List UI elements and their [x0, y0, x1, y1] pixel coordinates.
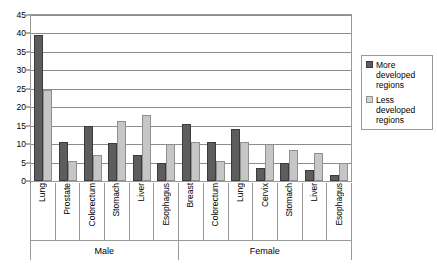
category-label-text: Lung: [38, 183, 47, 204]
bar-group: [326, 15, 351, 181]
y-axis-tick-label: 40: [17, 29, 26, 38]
bar-group: [129, 15, 154, 181]
y-axis-tick-label: 45: [17, 11, 26, 20]
bar-less-developed: [289, 150, 298, 181]
category-label-text: Esophagus: [335, 183, 344, 228]
bar-more-developed: [207, 142, 216, 181]
category-label: Stomach: [278, 183, 303, 240]
category-label-text: Stomach: [285, 183, 294, 219]
bar-more-developed: [231, 129, 240, 181]
bar-more-developed: [157, 163, 166, 181]
category-label: Lung: [229, 183, 254, 240]
group-label: Male: [31, 241, 179, 260]
legend-label-line2: developed: [376, 70, 415, 80]
category-label: Lung: [31, 183, 56, 240]
group-label-strip: MaleFemale: [30, 240, 352, 260]
category-label-text: Breast: [186, 183, 195, 210]
category-label: Prostate: [56, 183, 81, 240]
bar-less-developed: [314, 153, 323, 181]
category-label-text: Prostate: [63, 183, 72, 217]
bar-more-developed: [330, 175, 339, 181]
bar-more-developed: [108, 143, 117, 181]
bar-group: [56, 15, 81, 181]
bar-more-developed: [182, 124, 191, 181]
y-axis-tick-label: 10: [17, 140, 26, 149]
chart-legend: More developed regions Less developed re…: [361, 55, 433, 130]
bar-group: [80, 15, 105, 181]
category-label: Liver: [130, 183, 155, 240]
bar-more-developed: [305, 170, 314, 181]
category-label: Esophagus: [154, 183, 179, 240]
category-label-strip: LungProstateColorectumStomachLiverEsopha…: [30, 183, 352, 240]
category-label: Breast: [179, 183, 204, 240]
bar-more-developed: [256, 168, 265, 181]
category-label-text: Colorectum: [211, 183, 220, 228]
bar-group: [154, 15, 179, 181]
category-label-text: Liver: [310, 183, 319, 203]
bar-more-developed: [84, 126, 93, 181]
bar-less-developed: [166, 144, 175, 181]
bar-less-developed: [216, 161, 225, 181]
category-label-text: Cervix: [261, 183, 270, 209]
y-axis-tick-label: 35: [17, 47, 26, 56]
legend-swatch-more-developed: [366, 61, 373, 68]
category-label: Colorectum: [204, 183, 229, 240]
category-label-text: Esophagus: [162, 183, 171, 228]
legend-item-less-developed: Less developed regions: [366, 95, 429, 125]
legend-label-line1: More: [376, 60, 395, 70]
category-label: Stomach: [105, 183, 130, 240]
legend-label-less-developed: Less developed regions: [376, 95, 415, 125]
y-axis: 051015202530354045: [0, 0, 30, 196]
bar-more-developed: [34, 35, 43, 181]
category-label-text: Lung: [236, 183, 245, 204]
category-label: Cervix: [253, 183, 278, 240]
bar-group: [277, 15, 302, 181]
bar-group: [302, 15, 327, 181]
category-label: Esophagus: [327, 183, 351, 240]
bar-series-area: [31, 15, 351, 181]
bar-group: [252, 15, 277, 181]
category-label: Liver: [303, 183, 328, 240]
category-label-text: Liver: [137, 183, 146, 203]
y-axis-tick-label: 15: [17, 121, 26, 130]
bar-group: [31, 15, 56, 181]
bar-group: [228, 15, 253, 181]
bar-group: [179, 15, 204, 181]
bar-more-developed: [59, 142, 68, 181]
category-label: Colorectum: [80, 183, 105, 240]
bar-less-developed: [142, 115, 151, 181]
y-axis-tick-label: 25: [17, 84, 26, 93]
category-label-text: Stomach: [112, 183, 121, 219]
bar-group: [105, 15, 130, 181]
category-label-text: Colorectum: [88, 183, 97, 228]
legend-label-line3: regions: [376, 115, 404, 125]
bar-less-developed: [117, 121, 126, 181]
legend-item-more-developed: More developed regions: [366, 60, 429, 90]
legend-swatch-less-developed: [366, 96, 373, 103]
bar-less-developed: [43, 90, 52, 181]
y-axis-tick-label: 30: [17, 66, 26, 75]
bar-more-developed: [280, 163, 289, 181]
y-axis-tick-label: 20: [17, 103, 26, 112]
legend-label-line3: regions: [376, 80, 404, 90]
bar-less-developed: [93, 155, 102, 181]
bar-more-developed: [133, 155, 142, 181]
group-label: Female: [179, 241, 351, 260]
chart-container: 051015202530354045 LungProstateColorectu…: [0, 0, 437, 280]
bar-less-developed: [240, 142, 249, 181]
legend-label-line2: developed: [376, 105, 415, 115]
bar-less-developed: [265, 144, 274, 181]
bar-group: [203, 15, 228, 181]
bar-less-developed: [339, 163, 348, 181]
bar-less-developed: [191, 142, 200, 181]
bar-less-developed: [68, 161, 77, 181]
legend-label-line1: Less: [376, 95, 394, 105]
legend-label-more-developed: More developed regions: [376, 60, 415, 90]
